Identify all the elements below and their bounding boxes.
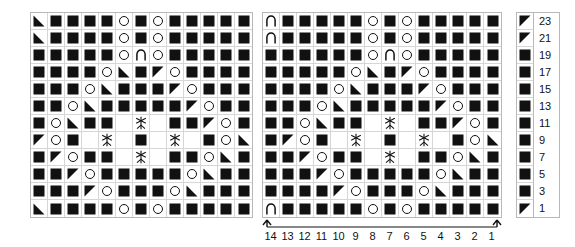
chart-cell[interactable] — [184, 132, 201, 149]
chart-cell[interactable] — [450, 47, 467, 64]
chart-cell[interactable] — [382, 149, 399, 166]
chart-cell[interactable] — [416, 166, 433, 183]
chart-cell[interactable] — [348, 115, 365, 132]
chart-cell[interactable] — [167, 13, 184, 30]
chart-cell[interactable] — [167, 149, 184, 166]
chart-cell[interactable] — [184, 81, 201, 98]
chart-cell[interactable] — [167, 30, 184, 47]
chart-cell[interactable] — [314, 183, 331, 200]
chart-cell[interactable] — [348, 166, 365, 183]
chart-cell[interactable] — [433, 81, 450, 98]
chart-cell[interactable] — [201, 30, 218, 47]
chart-cell[interactable] — [484, 13, 501, 30]
chart-cell[interactable] — [235, 149, 252, 166]
chart-cell[interactable] — [280, 183, 297, 200]
chart-cell[interactable] — [133, 132, 150, 149]
chart-cell[interactable] — [218, 64, 235, 81]
chart-cell[interactable] — [348, 200, 365, 217]
chart-cell[interactable] — [167, 183, 184, 200]
chart-cell[interactable] — [116, 149, 133, 166]
chart-cell[interactable] — [116, 200, 133, 217]
chart-cell[interactable] — [433, 149, 450, 166]
chart-cell[interactable] — [467, 30, 484, 47]
chart-cell[interactable] — [331, 98, 348, 115]
chart-cell[interactable] — [399, 64, 416, 81]
chart-cell[interactable] — [167, 115, 184, 132]
chart-cell[interactable] — [31, 149, 48, 166]
chart-cell[interactable] — [263, 13, 280, 30]
chart-cell[interactable] — [348, 81, 365, 98]
chart-cell[interactable] — [263, 47, 280, 64]
chart-cell[interactable] — [280, 166, 297, 183]
chart-cell[interactable] — [382, 166, 399, 183]
chart-cell[interactable] — [201, 149, 218, 166]
chart-cell[interactable] — [416, 13, 433, 30]
chart-cell[interactable] — [184, 13, 201, 30]
chart-cell[interactable] — [399, 166, 416, 183]
chart-cell[interactable] — [297, 98, 314, 115]
chart-cell[interactable] — [82, 132, 99, 149]
chart-cell[interactable] — [48, 149, 65, 166]
chart-cell[interactable] — [348, 98, 365, 115]
chart-cell[interactable] — [416, 30, 433, 47]
chart-cell[interactable] — [218, 132, 235, 149]
right-pattern-chart[interactable] — [262, 12, 502, 218]
chart-cell[interactable] — [65, 200, 82, 217]
chart-cell[interactable] — [201, 64, 218, 81]
chart-cell[interactable] — [331, 81, 348, 98]
chart-cell[interactable] — [31, 47, 48, 64]
chart-cell[interactable] — [450, 166, 467, 183]
chart-cell[interactable] — [31, 183, 48, 200]
chart-cell[interactable] — [218, 200, 235, 217]
chart-cell[interactable] — [184, 200, 201, 217]
chart-cell[interactable] — [484, 149, 501, 166]
chart-cell[interactable] — [263, 132, 280, 149]
chart-cell[interactable] — [484, 81, 501, 98]
chart-cell[interactable] — [235, 98, 252, 115]
chart-cell[interactable] — [167, 200, 184, 217]
chart-cell[interactable] — [365, 81, 382, 98]
chart-cell[interactable] — [416, 81, 433, 98]
chart-cell[interactable] — [314, 200, 331, 217]
chart-cell[interactable] — [167, 64, 184, 81]
chart-cell[interactable] — [297, 183, 314, 200]
chart-cell[interactable] — [416, 98, 433, 115]
chart-cell[interactable] — [484, 183, 501, 200]
chart-cell[interactable] — [48, 47, 65, 64]
chart-cell[interactable] — [99, 47, 116, 64]
chart-cell[interactable] — [133, 30, 150, 47]
chart-cell[interactable] — [467, 132, 484, 149]
chart-cell[interactable] — [31, 98, 48, 115]
chart-cell[interactable] — [201, 13, 218, 30]
chart-cell[interactable] — [484, 47, 501, 64]
chart-cell[interactable] — [314, 98, 331, 115]
chart-cell[interactable] — [280, 98, 297, 115]
chart-cell[interactable] — [467, 115, 484, 132]
chart-cell[interactable] — [263, 98, 280, 115]
chart-cell[interactable] — [297, 47, 314, 64]
chart-cell[interactable] — [48, 13, 65, 30]
chart-cell[interactable] — [382, 64, 399, 81]
chart-cell[interactable] — [184, 166, 201, 183]
chart-cell[interactable] — [65, 115, 82, 132]
chart-cell[interactable] — [348, 183, 365, 200]
chart-cell[interactable] — [150, 149, 167, 166]
chart-cell[interactable] — [65, 149, 82, 166]
chart-cell[interactable] — [382, 47, 399, 64]
chart-cell[interactable] — [484, 30, 501, 47]
chart-cell[interactable] — [218, 98, 235, 115]
chart-cell[interactable] — [235, 47, 252, 64]
chart-cell[interactable] — [65, 81, 82, 98]
chart-cell[interactable] — [297, 13, 314, 30]
chart-cell[interactable] — [167, 166, 184, 183]
chart-cell[interactable] — [150, 98, 167, 115]
chart-cell[interactable] — [116, 183, 133, 200]
chart-cell[interactable] — [297, 64, 314, 81]
chart-cell[interactable] — [382, 98, 399, 115]
chart-cell[interactable] — [433, 183, 450, 200]
chart-cell[interactable] — [399, 81, 416, 98]
chart-cell[interactable] — [263, 166, 280, 183]
chart-cell[interactable] — [235, 200, 252, 217]
chart-cell[interactable] — [433, 98, 450, 115]
chart-cell[interactable] — [382, 81, 399, 98]
